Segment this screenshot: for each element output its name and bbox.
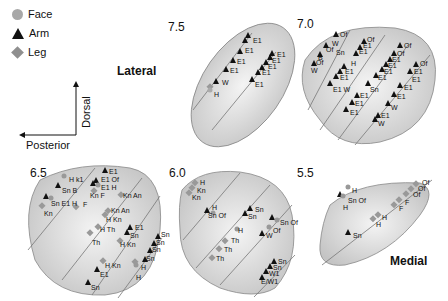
svg-text:Of: Of bbox=[316, 59, 323, 66]
panel-label-7-5: 7.5 bbox=[168, 20, 185, 34]
svg-text:H: H bbox=[376, 221, 381, 228]
svg-text:Sn: Sn bbox=[156, 239, 165, 246]
svg-text:E1: E1 bbox=[355, 100, 364, 107]
svg-text:E1: E1 bbox=[340, 74, 349, 81]
svg-text:Of: Of bbox=[340, 31, 347, 38]
svg-text:E1: E1 bbox=[350, 109, 359, 116]
svg-text:H k1: H k1 bbox=[69, 176, 84, 183]
svg-text:E1: E1 bbox=[237, 58, 246, 65]
svg-text:H: H bbox=[352, 187, 357, 194]
svg-text:W: W bbox=[391, 104, 398, 111]
svg-text:Sn E1 H: Sn E1 H bbox=[51, 200, 77, 207]
panel-label-7-0: 7.0 bbox=[297, 17, 314, 31]
svg-text:E1: E1 bbox=[100, 271, 109, 278]
svg-text:H: H bbox=[214, 91, 219, 98]
svg-text:Sn B: Sn B bbox=[62, 187, 78, 194]
svg-text:E1: E1 bbox=[255, 81, 264, 88]
svg-text:Of: Of bbox=[420, 60, 427, 67]
svg-text:Sn Of: Sn Of bbox=[208, 212, 226, 219]
svg-text:Of: Of bbox=[413, 191, 420, 198]
svg-text:E1: E1 bbox=[359, 48, 368, 55]
svg-text:H Kn: H Kn bbox=[105, 262, 121, 269]
svg-text:H: H bbox=[141, 264, 146, 271]
svg-text:Sn: Sn bbox=[248, 213, 257, 220]
svg-text:Sn: Sn bbox=[353, 232, 362, 239]
svg-text:W: W bbox=[222, 79, 229, 86]
svg-text:Sn: Sn bbox=[152, 246, 161, 253]
svg-text:H: H bbox=[351, 60, 356, 67]
svg-text:Kn An: Kn An bbox=[123, 192, 142, 199]
svg-text:H Kn: H Kn bbox=[120, 241, 136, 248]
svg-text:Of: Of bbox=[326, 46, 333, 53]
svg-text:Sn: Sn bbox=[336, 49, 345, 56]
svg-text:E1: E1 bbox=[135, 224, 144, 231]
svg-text:E1: E1 bbox=[397, 93, 406, 100]
panel-label-6-5: 6.5 bbox=[30, 166, 47, 180]
svg-text:E1: E1 bbox=[381, 112, 390, 119]
svg-text:E1: E1 bbox=[360, 92, 369, 99]
svg-text:E1: E1 bbox=[404, 84, 413, 91]
svg-text:Kn An: Kn An bbox=[111, 207, 130, 214]
svg-text:E1 H: E1 H bbox=[101, 184, 117, 191]
svg-text:W1: W1 bbox=[269, 270, 280, 277]
svg-text:Kn F: Kn F bbox=[90, 192, 105, 199]
svg-text:E1 Of: E1 Of bbox=[101, 176, 119, 183]
svg-text:H: H bbox=[212, 204, 217, 211]
svg-text:H: H bbox=[382, 214, 387, 221]
svg-text:W: W bbox=[378, 120, 385, 127]
svg-text:Sn: Sn bbox=[370, 86, 379, 93]
svg-text:E1: E1 bbox=[245, 47, 254, 54]
svg-text:Sn Of: Sn Of bbox=[280, 219, 298, 226]
medial-label: Medial bbox=[390, 254, 427, 268]
svg-text:F: F bbox=[399, 205, 403, 212]
svg-text:E1: E1 bbox=[253, 37, 262, 44]
panel-5-5: HSn OfH OfOfOf FF HHSn bbox=[320, 179, 432, 265]
svg-text:Sn Of: Sn Of bbox=[348, 197, 366, 204]
svg-text:H: H bbox=[238, 227, 243, 234]
somatotopy-figure: Face Arm Leg bbox=[0, 0, 448, 301]
svg-text:H: H bbox=[136, 274, 141, 281]
svg-text:Kn: Kn bbox=[192, 194, 201, 201]
svg-text:F: F bbox=[83, 201, 87, 208]
svg-text:Sn: Sn bbox=[146, 255, 155, 262]
svg-text:E1: E1 bbox=[262, 69, 271, 76]
svg-text:E/W1: E/W1 bbox=[261, 278, 278, 285]
panel-6-5: H k1Sn B Sn E1 HKn E1E1 Of E1 HKn FF Kn … bbox=[28, 166, 170, 298]
svg-text:Sn: Sn bbox=[161, 231, 170, 238]
svg-text:Sn: Sn bbox=[130, 232, 139, 239]
svg-text:W: W bbox=[311, 67, 318, 74]
panel-label-5-5: 5.5 bbox=[297, 166, 314, 180]
svg-text:W: W bbox=[266, 232, 273, 239]
panel-7-0: OfWOf SnBOf W OfE1E1 HE1E1 E1 W OfOfE1 E… bbox=[302, 27, 435, 145]
svg-text:Th: Th bbox=[216, 255, 224, 262]
svg-text:F: F bbox=[405, 199, 409, 206]
svg-text:Th: Th bbox=[92, 239, 100, 246]
svg-text:H Kn: H Kn bbox=[106, 216, 122, 223]
svg-text:E1: E1 bbox=[378, 74, 387, 81]
svg-text:E1: E1 bbox=[412, 76, 421, 83]
svg-text:Kn: Kn bbox=[44, 210, 53, 217]
svg-text:H Th: H Th bbox=[100, 226, 115, 233]
panel-6-0: HKnKn HSn Of SnSnH ThThTh Sn OfOfW SnSn … bbox=[179, 171, 298, 297]
svg-text:Of: Of bbox=[404, 42, 411, 49]
svg-text:Sn: Sn bbox=[255, 206, 264, 213]
panel-label-6-0: 6.0 bbox=[169, 166, 186, 180]
svg-text:E1: E1 bbox=[230, 67, 239, 74]
svg-text:E1: E1 bbox=[109, 168, 118, 175]
svg-text:H: H bbox=[200, 179, 205, 186]
svg-text:Th: Th bbox=[224, 246, 232, 253]
svg-text:E1: E1 bbox=[414, 68, 423, 75]
svg-text:H: H bbox=[343, 204, 348, 211]
svg-text:Kn: Kn bbox=[197, 187, 206, 194]
axis-posterior-label: Posterior bbox=[26, 139, 70, 151]
svg-text:E1 W: E1 W bbox=[333, 86, 351, 93]
lateral-label: Lateral bbox=[117, 64, 156, 78]
panel-7-5: E1E1E1 E1WH E1E1E1 E1E1 bbox=[170, 5, 316, 166]
svg-text:Th: Th bbox=[231, 237, 239, 244]
axis-dorsal-label: Dorsal bbox=[80, 96, 92, 128]
orientation-axes bbox=[22, 84, 76, 135]
svg-text:Sn: Sn bbox=[91, 284, 100, 291]
svg-text:Of: Of bbox=[273, 227, 280, 234]
